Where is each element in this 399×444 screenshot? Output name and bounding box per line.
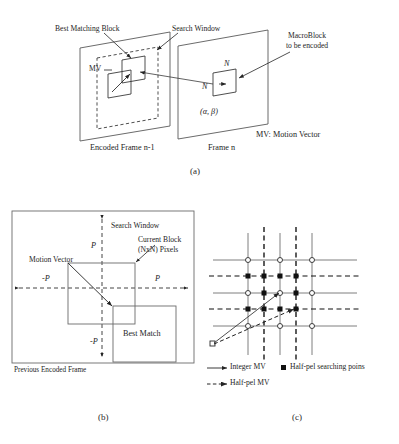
label-current-block-line1: Current Block <box>138 236 181 245</box>
panel-c-caption: (c) <box>292 412 302 422</box>
panel-a-caption: (a) <box>190 166 200 176</box>
leader-best-matching-block <box>104 33 131 58</box>
grid-dashed-horizontal <box>209 276 361 309</box>
label-p-bottom: -P <box>90 337 98 346</box>
label-frame-n: Frame n <box>208 143 235 152</box>
leader-macroblock <box>239 52 290 78</box>
label-alpha-beta: (α, β) <box>200 107 218 116</box>
figure-root: Best Matching Block Search Window MacroB… <box>0 0 399 444</box>
current-frame-parallelogram <box>178 30 268 139</box>
integer-mv-arrow <box>214 293 279 343</box>
panel-b-caption: (b) <box>98 412 109 422</box>
label-current-block-line2: (NxN) Pixels <box>138 246 178 255</box>
legend-label-halfpel-mv: Half-pel MV <box>230 379 269 388</box>
label-macroblock-line2: to be encoded <box>286 42 328 51</box>
label-n-top: N <box>224 59 229 68</box>
encoded-frame-parallelogram <box>80 32 170 141</box>
leader-search-window <box>157 33 178 50</box>
label-mv-motion-vector: MV: Motion Vector <box>256 130 320 139</box>
legend-label-integer-mv: Integer MV <box>230 363 266 372</box>
label-best-match: Best Match <box>123 329 161 338</box>
legend-halfpel-square-icon <box>281 365 286 370</box>
mv-arrow-internal <box>112 74 130 92</box>
grid-solid-horizontal <box>213 260 357 326</box>
label-macroblock-line1: MacroBlock <box>288 32 326 41</box>
label-search-window: Search Window <box>172 25 220 34</box>
panel-a: Best Matching Block Search Window MacroB… <box>0 0 399 185</box>
label-mv: MV <box>89 65 101 74</box>
label-p-top: P <box>91 241 96 250</box>
label-search-window-b: Search Window <box>111 222 159 231</box>
label-p-right: P <box>155 274 160 283</box>
label-best-matching-block: Best Matching Block <box>55 25 120 34</box>
halfpel-point-markers <box>246 274 299 312</box>
current-block-square <box>68 263 135 324</box>
label-p-left: -P <box>42 274 50 283</box>
legend-label-halfpel-points: Half-pel searching poins <box>290 363 365 372</box>
previous-encoded-frame-box <box>12 211 194 363</box>
macroblock-square <box>213 69 236 96</box>
label-previous-encoded-frame: Previous Encoded Frame <box>14 366 86 374</box>
motion-vector-arrow <box>68 263 112 306</box>
label-encoded-frame: Encoded Frame n-1 <box>90 143 155 152</box>
label-n-left: N <box>202 82 207 91</box>
label-motion-vector-b: Motion Vector <box>29 256 73 265</box>
panel-b: Search Window Current Block (NxN) Pixels… <box>0 205 205 395</box>
panel-c: Integer MV Half-pel searching poins Half… <box>205 205 399 395</box>
